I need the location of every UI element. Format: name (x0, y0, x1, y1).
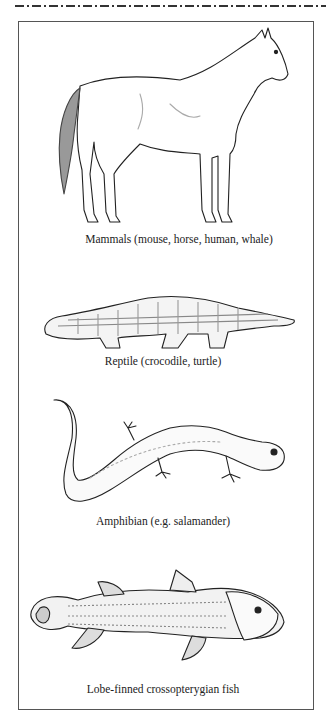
caption-amphibian: Amphibian (e.g. salamander) (0, 515, 326, 527)
coelacanth-illustration (28, 566, 290, 666)
crocodile-illustration (38, 290, 300, 350)
horse-illustration (50, 24, 295, 229)
salamander-illustration (50, 398, 290, 508)
caption-mammals: Mammals (mouse, horse, human, whale) (16, 233, 326, 245)
caption-reptile: Reptile (crocodile, turtle) (0, 355, 326, 367)
dash-dot-divider (15, 5, 326, 7)
caption-fish: Lobe-finned crossopterygian fish (0, 683, 326, 695)
